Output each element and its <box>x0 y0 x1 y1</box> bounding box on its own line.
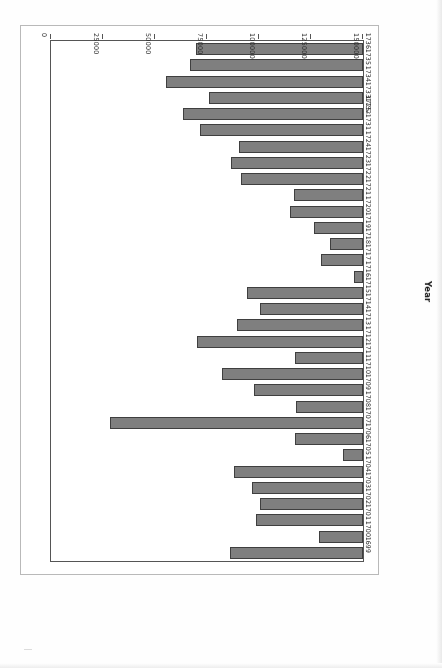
bar <box>256 514 363 526</box>
category-tick-label: 1705 <box>365 449 421 461</box>
bar <box>252 482 363 494</box>
bar <box>343 449 363 461</box>
value-axis-tick <box>50 34 51 39</box>
category-tick-label: 1724 <box>365 141 421 153</box>
bar <box>197 336 363 348</box>
bar <box>295 352 363 364</box>
bar <box>222 368 363 380</box>
category-tick-label-text: 1736 <box>364 33 372 49</box>
bar <box>209 92 363 104</box>
bar-row <box>51 433 363 445</box>
category-tick-label: 1704 <box>365 466 421 478</box>
bar <box>319 531 363 543</box>
bar <box>241 173 363 185</box>
bar <box>260 498 363 510</box>
bar <box>295 433 363 445</box>
value-axis-tick <box>102 34 103 39</box>
bar-row <box>51 173 363 185</box>
bar-row <box>51 92 363 104</box>
value-axis-tick-label: 100000 <box>248 33 256 59</box>
category-axis-labels: 1699170017011702170317041705170617071708… <box>365 41 423 561</box>
category-tick-label: 1719 <box>365 222 421 234</box>
category-tick-label: 1723 <box>365 157 421 169</box>
scan-edge-right <box>436 0 442 668</box>
value-axis-tick-label: 25000 <box>92 33 100 55</box>
bar-row <box>51 76 363 88</box>
bar-row <box>51 514 363 526</box>
category-axis-title: Year <box>423 281 433 302</box>
category-tick-label: 1732 <box>365 108 421 120</box>
category-tick-label: 1707 <box>365 417 421 429</box>
bar <box>260 303 363 315</box>
bar-row <box>51 401 363 413</box>
category-tick-label: 1711 <box>365 352 421 364</box>
bar-row <box>51 466 363 478</box>
bar <box>200 124 363 136</box>
bar-row <box>51 238 363 250</box>
bar <box>321 254 363 266</box>
category-tick-label: 1713 <box>365 319 421 331</box>
category-tick-label: 1712 <box>365 336 421 348</box>
bar-row <box>51 449 363 461</box>
value-axis-tick-label: 150000 <box>352 33 360 59</box>
value-axis-tick-label: 125000 <box>300 33 308 59</box>
category-tick-label: 1703 <box>365 482 421 494</box>
value-axis-tick <box>362 34 363 39</box>
category-tick-label: 1708 <box>365 401 421 413</box>
bar-row <box>51 336 363 348</box>
bar-row <box>51 498 363 510</box>
category-tick-label: 1714 <box>365 303 421 315</box>
category-tick-label: 1718 <box>365 238 421 250</box>
category-tick-label: 1709 <box>365 384 421 396</box>
value-axis: 0250005000075000100000125000150000 <box>51 25 363 39</box>
bar <box>237 319 363 331</box>
value-axis-tick <box>154 34 155 39</box>
category-tick-label: 1720 <box>365 206 421 218</box>
bar <box>231 157 363 169</box>
bar-row <box>51 368 363 380</box>
bar <box>290 206 363 218</box>
bar-row <box>51 417 363 429</box>
bar <box>296 401 363 413</box>
category-tick-label: 1721 <box>365 189 421 201</box>
bar-row <box>51 206 363 218</box>
category-tick-label: 1716 <box>365 271 421 283</box>
category-tick-label: 1725-1731 <box>365 124 421 136</box>
category-tick-label: 1700 <box>365 531 421 543</box>
scanned-page: 1699170017011702170317041705170617071708… <box>0 0 442 668</box>
value-axis-tick <box>206 34 207 39</box>
category-tick-label: 1715 <box>365 287 421 299</box>
bar-row <box>51 352 363 364</box>
bar <box>196 43 363 55</box>
category-tick-label: 1717 <box>365 254 421 266</box>
bar <box>294 189 363 201</box>
bar-row <box>51 59 363 71</box>
bar <box>183 108 363 120</box>
bar <box>190 59 363 71</box>
bar-row <box>51 384 363 396</box>
bar-row <box>51 189 363 201</box>
bar-row <box>51 319 363 331</box>
category-tick-label: 1733 <box>365 92 421 104</box>
bar-row <box>51 254 363 266</box>
value-axis-tick <box>258 34 259 39</box>
bar-row <box>51 482 363 494</box>
bar <box>230 547 363 559</box>
scan-edge-bottom <box>0 663 442 668</box>
value-axis-tick-label: 50000 <box>144 33 152 55</box>
page-caption-mark <box>24 649 32 650</box>
bar-row <box>51 531 363 543</box>
category-tick-label: 1706 <box>365 433 421 445</box>
bar <box>110 417 363 429</box>
rotated-figure-container: 1699170017011702170317041705170617071708… <box>20 25 379 575</box>
bar <box>354 271 363 283</box>
bar-row <box>51 222 363 234</box>
bar <box>234 466 363 478</box>
value-axis-tick-label: 0 <box>40 33 48 37</box>
category-tick-label: 1735 <box>365 59 421 71</box>
bar-series <box>51 41 363 561</box>
bar <box>254 384 363 396</box>
bar <box>330 238 363 250</box>
category-tick-label: 1701 <box>365 514 421 526</box>
bar-row <box>51 271 363 283</box>
